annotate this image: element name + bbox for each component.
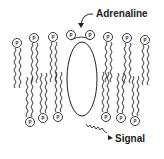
phosphate-head: P — [54, 113, 63, 122]
phosphate-head: P — [102, 113, 111, 122]
svg-text:P: P — [106, 35, 109, 40]
phosphate-head: P — [39, 114, 48, 123]
phosphate-head: P — [131, 117, 140, 126]
signal-label: Signal — [115, 133, 145, 144]
bottom-phosphate-heads: P P P P P P — [26, 113, 140, 127]
top-leaflet-tails — [14, 42, 149, 88]
svg-text:P: P — [88, 33, 91, 38]
svg-text:P: P — [133, 119, 136, 124]
signal-arrow — [86, 124, 113, 140]
svg-text:P: P — [143, 38, 146, 43]
phosphate-head: P — [26, 118, 35, 127]
bottom-leaflet-tails — [26, 72, 139, 117]
membrane-diagram: P P P P P P P P P P P P P P Adrenal — [0, 0, 164, 159]
adrenaline-label: Adrenaline — [96, 8, 148, 19]
svg-text:P: P — [41, 116, 44, 121]
phosphate-head: P — [49, 33, 58, 42]
receptor-protein — [67, 42, 97, 116]
phosphate-head: P — [104, 33, 113, 42]
svg-text:P: P — [56, 115, 59, 120]
svg-text:P: P — [69, 33, 72, 38]
phosphate-head: P — [67, 31, 76, 40]
adrenaline-arrow — [78, 14, 93, 28]
svg-text:P: P — [32, 36, 35, 41]
svg-text:P: P — [119, 116, 122, 121]
phosphate-head: P — [86, 31, 95, 40]
phosphate-head: P — [30, 34, 39, 43]
svg-text:P: P — [125, 36, 128, 41]
svg-text:P: P — [104, 115, 107, 120]
svg-text:P: P — [28, 120, 31, 125]
phosphate-head: P — [13, 39, 22, 48]
phosphate-head: P — [117, 114, 126, 123]
phosphate-head: P — [141, 36, 150, 45]
svg-text:P: P — [51, 35, 54, 40]
svg-text:P: P — [15, 41, 18, 46]
phosphate-head: P — [123, 34, 132, 43]
